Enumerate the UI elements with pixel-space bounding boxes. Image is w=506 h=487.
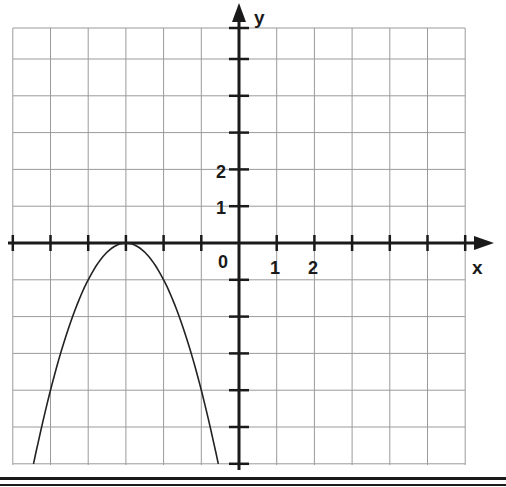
x-axis-label: x: [472, 257, 483, 278]
y-tick-label-2: 2: [216, 162, 226, 182]
origin-label: 0: [218, 252, 228, 272]
coordinate-plane: y x 0 1 2 1 2: [0, 0, 506, 487]
x-tick-label-1: 1: [270, 258, 280, 278]
divider-line: [0, 484, 506, 486]
y-axis-arrow-icon: [232, 3, 246, 22]
x-tick-label-2: 2: [308, 258, 318, 278]
axes: [8, 3, 494, 470]
y-tick-label-1: 1: [216, 198, 226, 218]
y-axis-label: y: [254, 7, 265, 28]
divider-line: [0, 477, 506, 480]
x-axis-arrow-icon: [474, 236, 494, 250]
